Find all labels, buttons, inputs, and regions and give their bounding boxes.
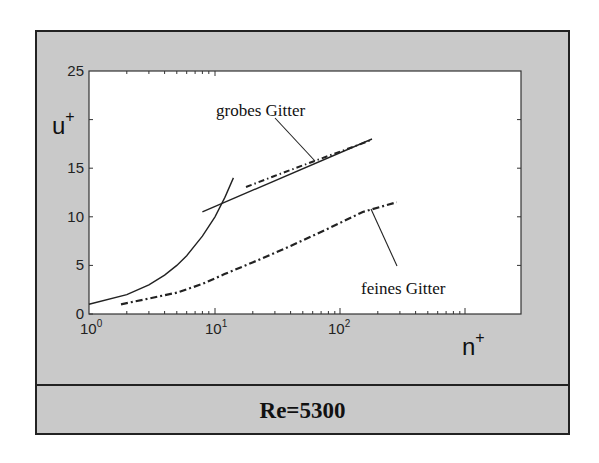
- y-tick-15: 15: [67, 159, 84, 176]
- x-axis-label: n+: [462, 329, 485, 360]
- y-tick-25: 25: [67, 62, 84, 79]
- x-tick-100: 102: [328, 318, 351, 337]
- y-tick-5: 5: [76, 256, 84, 273]
- y-axis-label: u+: [52, 108, 75, 139]
- y-tick-10: 10: [67, 208, 84, 225]
- chart: 0 5 10 15 25 100 101 102 u+ n+ grobes Gi…: [0, 0, 599, 463]
- x-tick-10: 101: [205, 318, 228, 337]
- annotation-grobes-gitter: grobes Gitter: [216, 101, 306, 120]
- x-tick-1: 100: [80, 318, 103, 337]
- annotation-feines-gitter: feines Gitter: [361, 279, 446, 298]
